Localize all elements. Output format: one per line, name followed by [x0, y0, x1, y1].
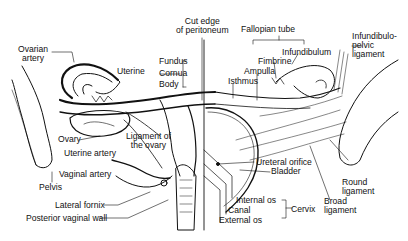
label-cut-edge: Cut edge of peritoneum [176, 17, 229, 35]
label-vaginal-artery: Vaginal artery [59, 170, 111, 179]
label-cornua: Cornua [159, 69, 187, 78]
label-infundibulopelvic-ligament: Infundibulo- pelvic ligament [352, 32, 397, 59]
label-line: the ovary [126, 141, 171, 150]
label-bladder: Bladder [271, 167, 301, 176]
label-fallopian-tube: Fallopian tube [241, 25, 295, 34]
label-line: ligament [352, 50, 397, 59]
label-isthmus: Isthmus [228, 77, 258, 86]
label-fundus: Fundus [159, 57, 188, 66]
label-pelvis: Pelvis [39, 183, 62, 192]
pelvis-right-outline [339, 60, 398, 165]
label-internal-os: Internal os [236, 196, 276, 205]
label-lateral-fornix: Lateral fornix [55, 201, 105, 210]
label-external-os: External os [219, 216, 262, 225]
label-uterine-artery: Uterine artery [64, 149, 116, 158]
anatomy-diagram: Ovarian artery Cut edge of peritoneum Fa… [0, 0, 408, 241]
label-uterine: Uterine [117, 67, 145, 76]
label-fimbrine: Fimbrine [258, 57, 291, 66]
label-ovarian-artery: Ovarian artery [18, 45, 48, 63]
label-line: artery [18, 54, 48, 63]
label-round-ligament: Round ligament [342, 178, 374, 196]
label-body: Body [159, 80, 179, 89]
label-posterior-vaginal-wall: Posterior vaginal wall [26, 214, 107, 223]
label-ligament-of-ovary: Ligament of the ovary [126, 132, 171, 150]
label-line: of peritoneum [176, 26, 229, 35]
label-ovary: Ovary [58, 135, 81, 144]
label-line: ligament [342, 187, 374, 196]
label-line: ligament [324, 206, 356, 215]
label-canal: Canal [228, 206, 250, 215]
label-broad-ligament: Broad ligament [324, 197, 356, 215]
label-cervix: Cervix [291, 205, 315, 214]
label-ampulla: Ampulla [244, 67, 275, 76]
